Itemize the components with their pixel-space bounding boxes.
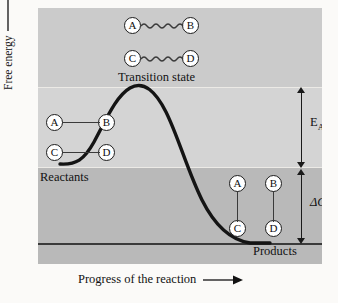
bond-A-B [62,122,100,123]
molecule-group-transition-state: A B C D [124,17,208,69]
plot-area: A B C D A B C D A C B D [38,8,322,264]
free-energy-change-measure: ΔG [297,169,322,244]
products-label: Products [253,244,297,259]
atom-C-product: C [229,220,246,237]
atom-C-reactant: C [46,144,63,161]
up-arrow-icon [3,0,13,31]
free-energy-diagram: A B C D A B C D A C B D [0,0,338,303]
x-axis-label: Progress of the reaction [78,272,196,287]
ea-subscript: A [318,122,322,132]
atom-B-transition: B [182,17,199,34]
wavy-bond-AB [140,21,184,31]
measure-line-ea [301,90,302,165]
bond-C-D [62,152,100,153]
atom-D-transition: D [182,50,199,67]
measure-line-dg [301,172,302,241]
wavy-bond-CD [140,54,184,64]
atom-A-transition: A [124,17,141,34]
atom-C-transition: C [124,50,141,67]
atom-A-product: A [229,175,246,192]
y-axis-label-group: Free energy [0,0,18,90]
free-energy-change-label: ΔG [310,195,322,210]
activation-energy-measure: EA [297,87,322,168]
molecule-group-reactants: A B C D [46,114,124,166]
atom-D-reactant: D [98,144,115,161]
atom-A-reactant: A [46,114,63,131]
atom-B-reactant: B [98,114,115,131]
arrowhead-down-icon-dg [297,238,305,244]
atom-B-product: B [265,175,282,192]
ea-symbol: E [310,115,318,129]
bond-A-C [237,191,238,222]
atom-D-product: D [265,220,282,237]
dg-symbol: ΔG [310,195,322,209]
bond-B-D [273,191,274,222]
reactants-label: Reactants [40,170,89,185]
right-arrow-icon [203,275,243,285]
arrowhead-down-icon [297,162,305,168]
y-axis-label: Free energy [2,36,14,90]
activation-energy-label: EA [310,115,322,132]
molecule-group-products: A C B D [229,175,291,237]
transition-state-label: Transition state [118,70,195,85]
x-axis-label-group: Progress of the reaction [78,272,243,287]
